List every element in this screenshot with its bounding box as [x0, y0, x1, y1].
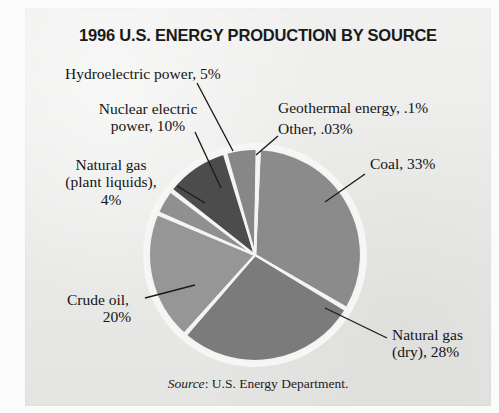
- source-note-rest: : U.S. Energy Department.: [205, 376, 349, 391]
- slice-label-nuclear-line1: Nuclear electric: [99, 100, 198, 117]
- slice-label-geothermal: Geothermal energy, .1%: [278, 99, 428, 116]
- slice-label-other: Other, .03%: [278, 120, 353, 137]
- slice-label-plant-liquids-line3: 4%: [101, 191, 122, 208]
- slice-label-crude-oil: Crude oil, 20%: [43, 291, 169, 326]
- slice-label-nuclear: Nuclear electric power, 10%: [73, 100, 223, 135]
- slice-label-crude-oil-line2: 20%: [43, 308, 169, 325]
- source-note-word: Source: [168, 376, 205, 391]
- slice-label-nuclear-line2: power, 10%: [111, 117, 185, 134]
- slice-label-coal: Coal, 33%: [370, 155, 435, 172]
- slice-label-plant-liquids-line2: (plant liquids),: [65, 173, 156, 190]
- slice-label-plant-liquids-line1: Natural gas: [75, 156, 146, 173]
- chart-panel: 1996 U.S. ENERGY PRODUCTION BY SOURCE Co…: [25, 8, 491, 406]
- slice-label-natural-gas-dry: Natural gas (dry), 28%: [392, 326, 463, 361]
- slice-label-crude-oil-line1: Crude oil,: [43, 291, 169, 308]
- slice-label-plant-liquids: Natural gas (plant liquids), 4%: [31, 156, 191, 208]
- slice-label-natural-gas-dry-line2: (dry), 28%: [392, 343, 463, 360]
- slice-label-natural-gas-dry-line1: Natural gas: [392, 326, 463, 343]
- figure-root: 1996 U.S. ENERGY PRODUCTION BY SOURCE Co…: [0, 0, 499, 413]
- source-note: Source: U.S. Energy Department.: [25, 376, 491, 392]
- slice-label-hydroelectric: Hydroelectric power, 5%: [65, 65, 221, 82]
